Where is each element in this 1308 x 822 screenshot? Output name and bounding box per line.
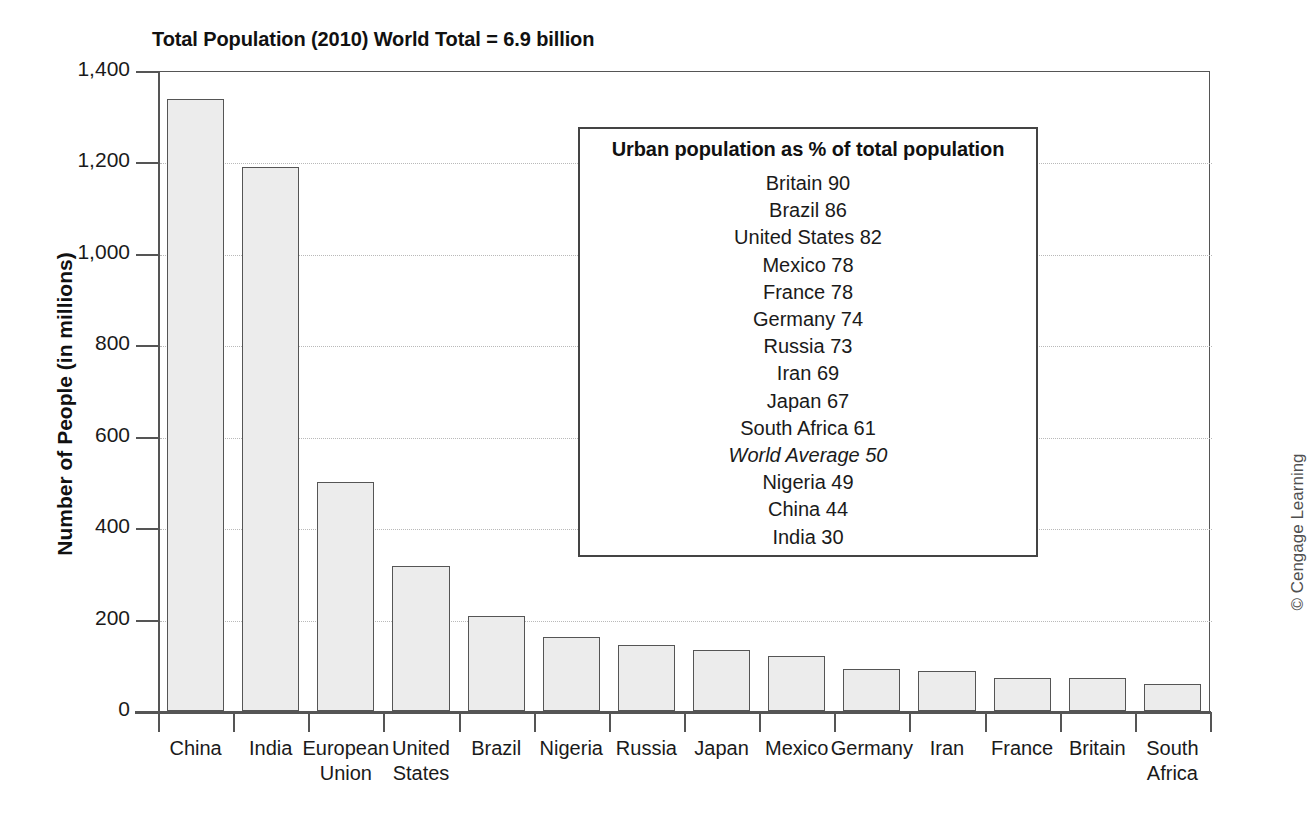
x-axis-label-line: India bbox=[227, 736, 314, 761]
y-axis-tick-label: 1,200 bbox=[40, 148, 130, 172]
y-axis-tick-label: 600 bbox=[40, 423, 130, 447]
bar bbox=[618, 645, 675, 711]
x-axis-tick bbox=[459, 712, 461, 732]
x-axis-label-line: Germany bbox=[828, 736, 915, 761]
x-axis-category-label: Brazil bbox=[453, 736, 540, 761]
y-axis-tick bbox=[136, 620, 158, 622]
x-axis-category-label: Germany bbox=[828, 736, 915, 761]
y-axis-tick-label: 1,000 bbox=[40, 240, 130, 264]
x-axis-category-label: China bbox=[152, 736, 239, 761]
y-axis-tick-label: 200 bbox=[40, 606, 130, 630]
x-axis-category-label: Iran bbox=[903, 736, 990, 761]
x-axis-category-label: Nigeria bbox=[528, 736, 615, 761]
x-axis-tick bbox=[1210, 712, 1212, 732]
x-axis-tick bbox=[383, 712, 385, 732]
x-axis-label-line: Nigeria bbox=[528, 736, 615, 761]
x-axis-label-line: France bbox=[979, 736, 1066, 761]
x-axis-label-line: Brazil bbox=[453, 736, 540, 761]
bar bbox=[468, 616, 525, 711]
annotation-entry: France 78 bbox=[580, 279, 1036, 306]
annotation-entry: Mexico 78 bbox=[580, 252, 1036, 279]
annotation-title: Urban population as % of total populatio… bbox=[580, 138, 1036, 161]
chart-title: Total Population (2010) World Total = 6.… bbox=[152, 28, 594, 51]
annotation-entry: India 30 bbox=[580, 524, 1036, 551]
x-axis-label-line: South bbox=[1129, 736, 1216, 761]
y-axis-tick-label: 0 bbox=[40, 697, 130, 721]
x-axis-label-line: Africa bbox=[1129, 761, 1216, 786]
x-axis-tick bbox=[684, 712, 686, 732]
y-axis-tick bbox=[136, 711, 158, 713]
bar bbox=[167, 99, 224, 711]
x-axis-labels: ChinaIndiaEuropeanUnionUnitedStatesBrazi… bbox=[158, 736, 1210, 806]
annotation-entry: South Africa 61 bbox=[580, 415, 1036, 442]
x-axis-tick bbox=[759, 712, 761, 732]
annotation-entry: Britain 90 bbox=[580, 170, 1036, 197]
x-axis-tick bbox=[909, 712, 911, 732]
annotation-entry: World Average 50 bbox=[580, 442, 1036, 469]
annotation-box: Urban population as % of total populatio… bbox=[578, 127, 1038, 557]
x-axis-category-label: Russia bbox=[603, 736, 690, 761]
x-axis-tick bbox=[834, 712, 836, 732]
x-axis-tick bbox=[534, 712, 536, 732]
annotation-entry: United States 82 bbox=[580, 224, 1036, 251]
y-axis-tick-label: 400 bbox=[40, 514, 130, 538]
x-axis-label-line: European bbox=[302, 736, 389, 761]
annotation-entry: Russia 73 bbox=[580, 333, 1036, 360]
x-axis-tick bbox=[985, 712, 987, 732]
x-axis-label-line: Russia bbox=[603, 736, 690, 761]
x-axis-label-line: Mexico bbox=[753, 736, 840, 761]
y-axis-tick bbox=[136, 254, 158, 256]
y-axis-tick bbox=[136, 162, 158, 164]
x-axis-label-line: United bbox=[377, 736, 464, 761]
x-axis-label-line: States bbox=[377, 761, 464, 786]
bar bbox=[843, 669, 900, 711]
y-axis-tick bbox=[136, 528, 158, 530]
y-axis-tick-label: 800 bbox=[40, 331, 130, 355]
annotation-entry: China 44 bbox=[580, 496, 1036, 523]
x-axis-label-line: Union bbox=[302, 761, 389, 786]
copyright-credit: © Cengage Learning bbox=[1288, 407, 1308, 657]
x-axis-ticks bbox=[158, 712, 1210, 734]
x-axis-category-label: France bbox=[979, 736, 1066, 761]
x-axis-tick bbox=[308, 712, 310, 732]
x-axis-category-label: India bbox=[227, 736, 314, 761]
y-axis-tick-label: 1,400 bbox=[40, 57, 130, 81]
x-axis-label-line: Iran bbox=[903, 736, 990, 761]
x-axis-label-line: Britain bbox=[1054, 736, 1141, 761]
bar bbox=[994, 678, 1051, 711]
x-axis-category-label: Britain bbox=[1054, 736, 1141, 761]
annotation-entry: Germany 74 bbox=[580, 306, 1036, 333]
bar bbox=[768, 656, 825, 711]
bar bbox=[392, 566, 449, 711]
bar bbox=[1069, 678, 1126, 711]
x-axis-label-line: Japan bbox=[678, 736, 765, 761]
annotation-entry: Japan 67 bbox=[580, 388, 1036, 415]
bar bbox=[693, 650, 750, 711]
x-axis-tick bbox=[1060, 712, 1062, 732]
annotation-entry: Nigeria 49 bbox=[580, 469, 1036, 496]
x-axis-category-label: EuropeanUnion bbox=[302, 736, 389, 786]
bar bbox=[543, 637, 600, 711]
bar bbox=[242, 167, 299, 711]
y-axis-tick bbox=[136, 437, 158, 439]
x-axis-category-label: SouthAfrica bbox=[1129, 736, 1216, 786]
x-axis-category-label: Japan bbox=[678, 736, 765, 761]
y-axis-tick bbox=[136, 71, 158, 73]
x-axis-category-label: UnitedStates bbox=[377, 736, 464, 786]
bar bbox=[918, 671, 975, 711]
bar bbox=[1144, 684, 1201, 711]
annotation-entry: Iran 69 bbox=[580, 360, 1036, 387]
x-axis-label-line: China bbox=[152, 736, 239, 761]
annotation-entry: Brazil 86 bbox=[580, 197, 1036, 224]
y-axis-tick bbox=[136, 345, 158, 347]
x-axis-tick bbox=[609, 712, 611, 732]
annotation-entries: Britain 90Brazil 86United States 82Mexic… bbox=[580, 170, 1036, 551]
x-axis-tick bbox=[233, 712, 235, 732]
bar bbox=[317, 482, 374, 711]
x-axis-tick bbox=[1135, 712, 1137, 732]
x-axis-category-label: Mexico bbox=[753, 736, 840, 761]
y-axis-title: Number of People (in millions) bbox=[53, 124, 77, 684]
x-axis-tick bbox=[158, 712, 160, 732]
